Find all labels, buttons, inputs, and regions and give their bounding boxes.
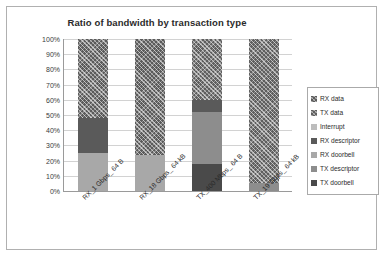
- legend-label: RX doorbell: [320, 152, 354, 159]
- y-tick-label: 10%: [30, 172, 60, 179]
- y-tick-label: 0%: [30, 188, 60, 195]
- y-tick-label: 70%: [30, 81, 60, 88]
- y-tick-label: 100%: [30, 36, 60, 43]
- legend-label: RX descriptor: [320, 138, 360, 145]
- y-tick-label: 40%: [30, 127, 60, 134]
- legend-item-tx-descriptor[interactable]: TX descriptor: [311, 162, 375, 176]
- legend-label: TX doorbell: [320, 180, 354, 187]
- bar-segment-tx-descriptor[interactable]: [192, 112, 222, 164]
- y-tick-label: 80%: [30, 66, 60, 73]
- bar-stack[interactable]: [192, 39, 222, 191]
- legend-swatch-icon: [311, 110, 317, 116]
- legend-item-interrupt[interactable]: Interrupt: [311, 120, 375, 134]
- y-tick-label: 90%: [30, 51, 60, 58]
- bar-segment-tx-data[interactable]: [249, 39, 279, 183]
- legend-swatch-icon: [311, 152, 317, 158]
- legend-label: TX descriptor: [320, 166, 359, 173]
- legend-swatch-icon: [311, 138, 317, 144]
- chart-title: Ratio of bandwidth by transaction type: [7, 17, 307, 28]
- legend-label: Interrupt: [320, 124, 345, 131]
- bar-stack[interactable]: [78, 39, 108, 191]
- legend-swatch-icon: [311, 180, 317, 186]
- legend-item-tx-data[interactable]: TX data: [311, 106, 375, 120]
- legend-item-rx-doorbell[interactable]: RX doorbell: [311, 148, 375, 162]
- y-tick-label: 30%: [30, 142, 60, 149]
- plot-area: 100%90%80%70%60%50%40%30%20%10%0% RX_1 G…: [63, 39, 292, 192]
- legend-label: TX data: [320, 110, 343, 117]
- legend-swatch-icon: [311, 124, 317, 130]
- bar-segment-rx-data[interactable]: [78, 39, 108, 118]
- legend-swatch-icon: [311, 96, 317, 102]
- legend-item-rx-data[interactable]: RX data: [311, 92, 375, 106]
- bar-segment-rx-data[interactable]: [135, 39, 165, 155]
- y-tick-label: 60%: [30, 96, 60, 103]
- legend-item-rx-descriptor[interactable]: RX descriptor: [311, 134, 375, 148]
- chart-container: Ratio of bandwidth by transaction type P…: [6, 6, 377, 250]
- bar-segment-tx-data[interactable]: [192, 39, 222, 100]
- bar-stack[interactable]: [135, 39, 165, 191]
- chart-legend: RX dataTX dataInterruptRX descriptorRX d…: [307, 87, 379, 195]
- y-tick-label: 20%: [30, 157, 60, 164]
- y-tick-label: 50%: [30, 112, 60, 119]
- legend-label: RX data: [320, 96, 344, 103]
- legend-item-tx-doorbell[interactable]: TX doorbell: [311, 176, 375, 190]
- bar-segment-tx-desc-dark[interactable]: [192, 100, 222, 112]
- legend-swatch-icon: [311, 166, 317, 172]
- bar-segment-rx-descriptor[interactable]: [78, 118, 108, 153]
- bar-stack[interactable]: [249, 39, 279, 191]
